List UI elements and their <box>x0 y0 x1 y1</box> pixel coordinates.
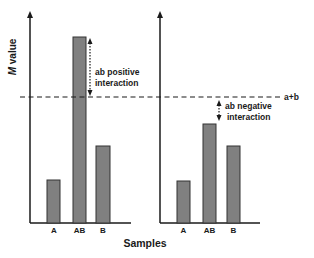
right-tick-b: B <box>231 226 237 235</box>
left-tick-a: A <box>51 226 57 235</box>
reference-line-label: a+b <box>284 92 299 102</box>
positive-annotation-line2: interaction <box>95 78 138 88</box>
negative-annotation-line1: ab negative <box>225 101 272 111</box>
negative-annotation-line2: interaction <box>227 112 270 122</box>
right-bar-a <box>177 181 190 223</box>
x-axis-label: Samples <box>123 237 166 249</box>
left-bar-b <box>96 146 110 223</box>
positive-arrow-down-icon <box>88 90 93 96</box>
right-panel: A AB B ab negative interaction <box>157 11 272 235</box>
positive-arrow-up-icon <box>88 38 93 44</box>
left-panel: A AB B ab positive interaction <box>27 11 140 235</box>
positive-annotation-line1: ab positive <box>95 67 140 77</box>
chart-figure: M value A AB B ab positive interaction A… <box>0 0 314 258</box>
left-tick-b: B <box>100 226 106 235</box>
right-bar-ab <box>203 124 216 223</box>
negative-arrow-down-icon <box>217 115 222 121</box>
left-bar-ab <box>73 37 86 223</box>
right-tick-ab: AB <box>204 226 216 235</box>
left-bar-a <box>47 180 60 223</box>
negative-arrow-up-icon <box>217 100 222 106</box>
right-y-axis-arrow-icon <box>157 11 163 18</box>
left-y-axis-arrow-icon <box>27 11 33 18</box>
right-bar-b <box>227 146 240 223</box>
right-tick-a: A <box>181 226 187 235</box>
left-tick-ab: AB <box>74 226 86 235</box>
y-axis-label: M value <box>7 38 18 75</box>
